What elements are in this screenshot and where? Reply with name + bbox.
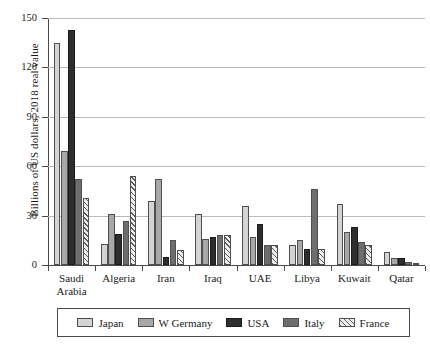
legend-entry-italy: Italy — [283, 317, 324, 329]
legend-entry-usa: USA — [226, 317, 269, 329]
bar-group — [48, 18, 95, 265]
bar — [68, 30, 75, 265]
bar — [358, 242, 365, 265]
legend-swatch-icon — [77, 318, 93, 327]
legend-label: USA — [247, 317, 269, 329]
x-tick-mark — [425, 266, 426, 271]
bar — [75, 179, 82, 265]
bar — [115, 234, 122, 265]
x-tick-mark — [142, 266, 143, 271]
chart-legend: JapanW GermanyUSAItalyFrance — [57, 308, 410, 337]
bar — [108, 214, 115, 265]
x-axis-label: Qatar — [368, 272, 430, 285]
y-tick-mark-60 — [42, 166, 48, 167]
bar — [413, 263, 420, 265]
bar — [304, 249, 311, 265]
y-tick-mark-90 — [42, 117, 48, 118]
bar-group — [378, 18, 425, 265]
x-tick-mark — [48, 266, 49, 271]
x-axis-label-line: Arabia — [38, 285, 105, 298]
bar-group — [95, 18, 142, 265]
bar — [202, 239, 209, 265]
bar — [101, 244, 108, 265]
bar — [318, 249, 325, 265]
y-axis-title: Billions of US dollars, 2018 real value — [28, 0, 40, 260]
bar — [365, 245, 372, 265]
legend-swatch-icon — [138, 318, 154, 327]
bar — [384, 252, 391, 265]
bar — [148, 201, 155, 265]
legend-swatch-icon — [226, 318, 242, 327]
bar — [405, 262, 412, 265]
bar-group — [142, 18, 189, 265]
bar — [311, 189, 318, 265]
legend-label: Italy — [304, 317, 324, 329]
bar — [123, 221, 130, 265]
bar — [83, 198, 90, 266]
y-tick-mark-120 — [42, 67, 48, 68]
bar — [130, 176, 137, 265]
bar — [264, 245, 271, 265]
bar — [289, 245, 296, 265]
x-tick-mark — [284, 266, 285, 271]
y-tick-label: 60 — [0, 161, 37, 171]
bar — [210, 237, 217, 265]
bar — [391, 258, 398, 265]
bar — [195, 214, 202, 265]
bar — [297, 240, 304, 265]
x-tick-mark — [378, 266, 379, 271]
bar — [337, 204, 344, 265]
bar-chart-figure: Billions of US dollars, 2018 real value … — [0, 0, 430, 352]
legend-swatch-icon — [339, 318, 355, 327]
bar-group — [189, 18, 236, 265]
bar — [398, 258, 405, 265]
bar — [344, 232, 351, 265]
y-tick-label: 30 — [0, 211, 37, 221]
y-tick-mark-150 — [42, 18, 48, 19]
x-axis-label-line: Qatar — [368, 272, 430, 285]
bar — [54, 43, 61, 265]
plot-area — [48, 18, 425, 265]
x-tick-mark — [237, 266, 238, 271]
y-tick-label: 0 — [0, 260, 37, 270]
legend-swatch-icon — [283, 318, 299, 327]
bar — [271, 245, 278, 265]
x-tick-mark — [189, 266, 190, 271]
legend-label: France — [360, 317, 390, 329]
y-tick-mark-30 — [42, 216, 48, 217]
legend-entry-france: France — [339, 317, 390, 329]
x-tick-mark — [331, 266, 332, 271]
legend-label: Japan — [98, 317, 123, 329]
bar-group — [331, 18, 378, 265]
bar — [250, 237, 257, 265]
bar-group — [284, 18, 331, 265]
bar — [177, 250, 184, 265]
bar — [242, 206, 249, 265]
legend-entry-w-germany: W Germany — [138, 317, 213, 329]
bar — [224, 235, 231, 265]
legend-entry-japan: Japan — [77, 317, 123, 329]
bar — [217, 235, 224, 265]
bar — [351, 227, 358, 265]
bar-group — [237, 18, 284, 265]
bar — [155, 179, 162, 265]
y-tick-label: 150 — [0, 13, 37, 23]
legend-label: W Germany — [159, 317, 213, 329]
x-tick-mark — [95, 266, 96, 271]
bar — [163, 257, 170, 265]
bar — [170, 240, 177, 265]
y-tick-label: 120 — [0, 62, 37, 72]
bar — [257, 224, 264, 265]
y-tick-label: 90 — [0, 112, 37, 122]
bar — [61, 151, 68, 265]
